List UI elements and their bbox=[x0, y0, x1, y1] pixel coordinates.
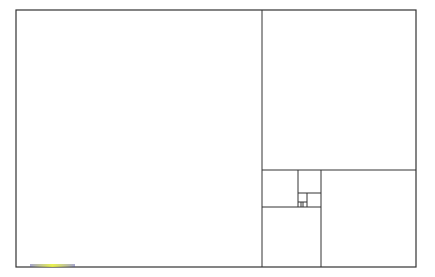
golden-rectangle-diagram bbox=[0, 0, 435, 277]
subdivision-lines bbox=[262, 10, 416, 267]
outer-rectangle bbox=[16, 10, 416, 267]
color-artifact bbox=[30, 264, 75, 267]
